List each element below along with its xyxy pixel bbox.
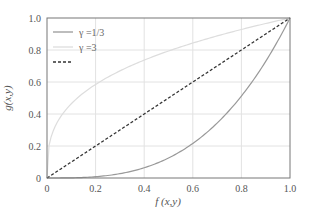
y-tick-label: 0.4 [29,109,42,120]
y-tick-label: 0.2 [29,141,42,152]
x-tick-label: 0.6 [187,183,200,194]
y-axis-label: g(x,y) [1,85,14,111]
y-tick-label: 0.6 [29,77,42,88]
x-tick-label: 0.2 [89,183,102,194]
chart: 00.20.40.60.81.0 00.20.40.60.81.0 f (x,y… [0,0,310,220]
x-tick-label: 0.8 [235,183,248,194]
y-tick-labels: 00.20.40.60.81.0 [29,13,42,184]
x-tick-label: 0.4 [138,183,151,194]
x-axis-label: f (x,y) [155,195,181,208]
x-tick-label: 1.0 [284,183,297,194]
y-tick-label: 0.8 [29,45,42,56]
legend-label: γ =1/3 [78,27,104,38]
y-tick-label: 0 [36,173,41,184]
x-tick-label: 0 [45,183,50,194]
x-tick-labels: 00.20.40.60.81.0 [45,183,297,194]
legend-label: γ =3 [78,42,97,53]
y-tick-label: 1.0 [29,13,42,24]
legend: γ =1/3γ =3 [53,27,104,63]
